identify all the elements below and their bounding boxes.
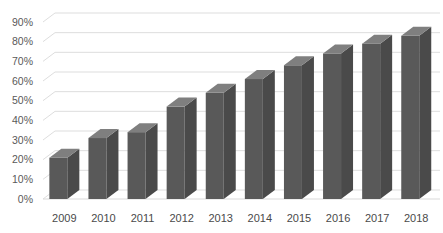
x-label-2012: 2012	[169, 212, 193, 224]
svg-text:40%: 40%	[12, 114, 33, 126]
x-label-2009: 2009	[52, 212, 76, 224]
bar-2014	[245, 70, 275, 199]
y-axis-labels: 0%10%20%30%40%50%60%70%80%90%	[12, 16, 33, 205]
x-label-2017: 2017	[365, 212, 389, 224]
svg-text:70%: 70%	[12, 55, 33, 67]
bar-2017	[362, 35, 392, 199]
bar-2009	[49, 149, 79, 199]
bar-2015	[284, 56, 314, 199]
svg-text:10%: 10%	[12, 173, 33, 185]
svg-text:30%: 30%	[12, 134, 33, 146]
bar-2012	[167, 98, 197, 199]
x-label-2018: 2018	[404, 212, 428, 224]
x-label-2015: 2015	[287, 212, 311, 224]
svg-text:60%: 60%	[12, 75, 33, 87]
bar-2013	[206, 84, 236, 199]
x-label-2016: 2016	[326, 212, 350, 224]
x-label-2014: 2014	[248, 212, 272, 224]
svg-text:50%: 50%	[12, 94, 33, 106]
svg-text:90%: 90%	[12, 16, 33, 28]
bar-2011	[128, 123, 158, 199]
x-label-2013: 2013	[209, 212, 233, 224]
x-axis-labels: 2009201020112012201320142015201620172018	[52, 212, 428, 224]
svg-text:20%: 20%	[12, 153, 33, 165]
bar-2018	[401, 27, 431, 199]
svg-text:80%: 80%	[12, 35, 33, 47]
bar-chart: 0%10%20%30%40%50%60%70%80%90% 2009201020…	[0, 0, 443, 233]
bar-2010	[88, 129, 118, 199]
x-label-2011: 2011	[131, 212, 155, 224]
chart-canvas: 0%10%20%30%40%50%60%70%80%90% 2009201020…	[0, 0, 443, 233]
svg-text:0%: 0%	[18, 193, 33, 205]
x-label-2010: 2010	[91, 212, 115, 224]
bar-2016	[323, 44, 353, 199]
